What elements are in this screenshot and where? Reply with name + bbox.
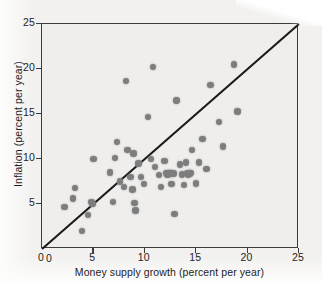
x-tick-label: 5: [79, 251, 105, 263]
y-tick-mark: [36, 113, 41, 114]
data-point: [127, 174, 133, 180]
y-tick-mark: [36, 158, 41, 159]
data-point: [129, 186, 135, 192]
data-point: [107, 169, 113, 175]
y-tick-mark: [36, 203, 41, 204]
data-point: [203, 166, 209, 172]
data-point: [183, 159, 189, 165]
y-tick-label: 25: [11, 16, 35, 28]
y-axis-label: Inflation (percent per year): [12, 39, 24, 209]
y-tick-mark: [36, 68, 41, 69]
scatter-plot-figure: 0510152025 0510152025 Money supply growt…: [0, 0, 322, 282]
data-point: [145, 114, 151, 120]
data-point: [132, 207, 138, 213]
data-point: [168, 181, 174, 187]
data-point: [193, 180, 199, 186]
x-tick-label: 15: [182, 251, 208, 263]
data-point: [199, 136, 205, 142]
x-tick-label: 25: [285, 251, 311, 263]
data-point: [177, 161, 183, 167]
x-tick-label: 10: [131, 251, 157, 263]
data-point: [220, 143, 226, 149]
x-tick-label: 20: [234, 251, 260, 263]
data-point: [173, 97, 179, 103]
data-point: [90, 156, 96, 162]
plot-area: [41, 23, 298, 248]
y-tick-label: 0: [28, 252, 52, 264]
data-point: [171, 211, 177, 217]
data-point-overlapping: [163, 170, 174, 176]
data-point: [89, 201, 95, 207]
data-point: [70, 195, 76, 201]
data-point: [234, 108, 240, 114]
x-axis-label: Money supply growth (percent per year): [41, 266, 298, 278]
data-point: [61, 204, 67, 210]
data-point: [135, 160, 141, 166]
data-point: [130, 150, 136, 156]
data-point: [161, 158, 167, 164]
data-point: [138, 174, 144, 180]
data-point: [131, 200, 137, 206]
data-point: [72, 185, 78, 191]
y-tick-mark: [36, 23, 41, 24]
